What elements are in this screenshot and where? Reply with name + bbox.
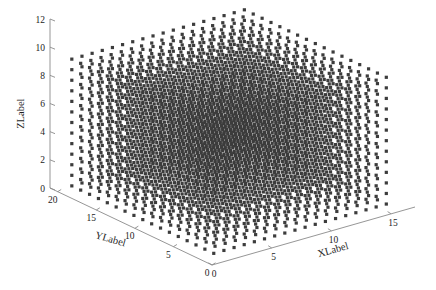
x-axis-line bbox=[212, 207, 415, 265]
z-tick-1 bbox=[50, 160, 55, 162]
z-tick-3 bbox=[50, 104, 55, 106]
z-tick-label-5: 10 bbox=[36, 43, 46, 53]
z-tick-4 bbox=[50, 75, 55, 77]
z-axis-title: ZLabel bbox=[15, 98, 26, 128]
y-tick-label-3: 15 bbox=[87, 213, 97, 223]
z-tick-2 bbox=[50, 132, 55, 134]
y-axis-title: YLabel bbox=[94, 229, 127, 248]
x-axis-title: XLabel bbox=[316, 240, 349, 259]
x-tick-3 bbox=[388, 212, 392, 214]
y-tick-1 bbox=[173, 244, 177, 246]
y-tick-label-4: 20 bbox=[48, 195, 58, 205]
z-tick-0 bbox=[50, 188, 55, 190]
x-tick-2 bbox=[328, 229, 332, 231]
z-tick-label-1: 2 bbox=[40, 155, 45, 165]
y-tick-label-1: 5 bbox=[166, 250, 171, 260]
x-tick-label-1: 5 bbox=[271, 252, 276, 262]
z-tick-label-4: 8 bbox=[40, 71, 45, 81]
scatter3d-plot: 05101505101520024681012 XLabelYLabelZLab… bbox=[0, 0, 436, 290]
z-tick-6 bbox=[50, 19, 55, 21]
z-tick-label-6: 12 bbox=[36, 15, 46, 25]
y-tick-3 bbox=[96, 208, 100, 210]
z-tick-label-0: 0 bbox=[40, 184, 45, 194]
y-tick-4 bbox=[58, 189, 62, 191]
z-tick-label-2: 4 bbox=[40, 127, 45, 137]
z-tick-label-3: 6 bbox=[40, 99, 45, 109]
y-tick-2 bbox=[135, 226, 139, 228]
z-tick-5 bbox=[50, 47, 55, 49]
data-point-cloud bbox=[70, 8, 388, 255]
figure-canvas: 05101505101520024681012 XLabelYLabelZLab… bbox=[0, 0, 436, 290]
x-tick-label-0: 0 bbox=[212, 269, 217, 279]
x-tick-label-3: 15 bbox=[388, 218, 398, 228]
y-tick-label-0: 0 bbox=[205, 268, 210, 278]
x-tick-1 bbox=[268, 246, 272, 248]
